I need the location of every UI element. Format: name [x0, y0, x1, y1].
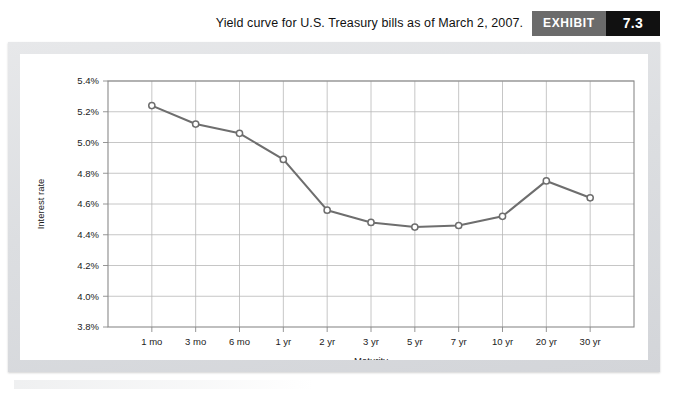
exhibit-number: 7.3 — [606, 11, 660, 36]
data-point-marker — [149, 103, 155, 109]
x-tick-label: 10 yr — [492, 336, 513, 347]
data-point-marker — [324, 207, 330, 213]
exhibit-page: Yield curve for U.S. Treasury bills as o… — [0, 0, 676, 393]
page-footer-artifact — [14, 380, 314, 389]
exhibit-badge: EXHIBIT 7.3 — [532, 11, 660, 36]
page-title: Yield curve for U.S. Treasury bills as o… — [216, 10, 523, 36]
y-tick-label: 4.6% — [77, 198, 99, 209]
y-tick-label: 4.8% — [77, 168, 99, 179]
y-tick-label: 5.2% — [77, 106, 99, 117]
data-point-marker — [368, 219, 374, 225]
x-axis-title: Maturity — [354, 355, 388, 360]
x-tick-label: 20 yr — [536, 336, 557, 347]
chart-card: 5.4%5.2%5.0%4.8%4.6%4.4%4.2%4.0%3.8% 1 m… — [20, 54, 648, 360]
data-point-marker — [456, 222, 462, 228]
y-axis-title: Interest rate — [35, 179, 46, 230]
x-tick-label: 1 yr — [275, 336, 291, 347]
x-tick-label: 6 mo — [229, 336, 250, 347]
x-tick-label: 5 yr — [407, 336, 423, 347]
data-point-marker — [193, 121, 199, 127]
data-point-marker — [236, 130, 242, 136]
x-tick-label: 3 mo — [185, 336, 206, 347]
y-tick-label: 4.0% — [77, 291, 99, 302]
data-point-marker — [543, 178, 549, 184]
y-tick-label: 3.8% — [77, 321, 99, 332]
y-tick-label: 4.2% — [77, 260, 99, 271]
x-tick-label: 3 yr — [363, 336, 379, 347]
x-tick-label: 30 yr — [580, 336, 601, 347]
data-point-marker — [587, 195, 593, 201]
exhibit-label: EXHIBIT — [532, 11, 606, 36]
data-point-marker — [499, 213, 505, 219]
x-axis-tick-labels: 1 mo3 mo6 mo1 yr2 yr3 yr5 yr7 yr10 yr20 … — [141, 336, 600, 347]
exhibit-header: Yield curve for U.S. Treasury bills as o… — [0, 10, 676, 36]
y-tick-label: 5.4% — [77, 75, 99, 86]
chart-svg: 5.4%5.2%5.0%4.8%4.6%4.4%4.2%4.0%3.8% 1 m… — [20, 54, 648, 360]
x-tick-label: 7 yr — [451, 336, 467, 347]
y-tick-label: 5.0% — [77, 137, 99, 148]
y-tick-label: 4.4% — [77, 229, 99, 240]
exhibit-frame: 5.4%5.2%5.0%4.8%4.6%4.4%4.2%4.0%3.8% 1 m… — [8, 42, 660, 372]
chart-gridlines — [108, 81, 634, 327]
data-point-marker — [280, 156, 286, 162]
x-tick-label: 1 mo — [141, 336, 162, 347]
y-axis-tick-labels: 5.4%5.2%5.0%4.8%4.6%4.4%4.2%4.0%3.8% — [77, 75, 99, 332]
data-point-marker — [412, 224, 418, 230]
x-tick-label: 2 yr — [319, 336, 335, 347]
yield-curve-chart: 5.4%5.2%5.0%4.8%4.6%4.4%4.2%4.0%3.8% 1 m… — [20, 54, 648, 360]
